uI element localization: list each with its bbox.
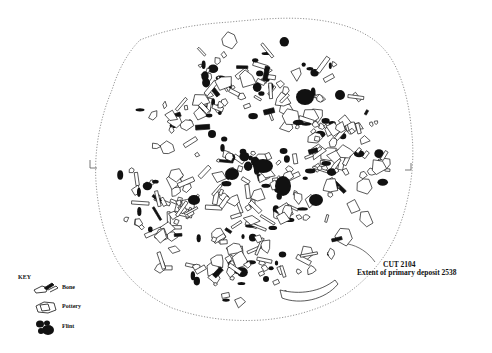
key-label-flint: Flint [62, 323, 74, 329]
key-title: KEY [18, 274, 31, 280]
label-leader-line [348, 244, 375, 262]
site-plan [0, 0, 492, 353]
deposit-label: Extent of primary deposit 2538 [357, 268, 457, 277]
section-mark-right [405, 163, 411, 170]
flint-filled-icon [36, 321, 54, 336]
pottery-outline-icon [36, 302, 56, 313]
bone-outline-icon [34, 283, 58, 293]
finds-layer [117, 32, 390, 308]
key-label-pottery: Pottery [62, 303, 81, 309]
key-label-bone: Bone [62, 284, 75, 290]
